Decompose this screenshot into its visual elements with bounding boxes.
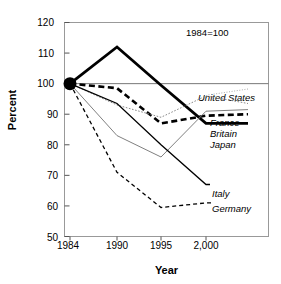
series-line-japan [70,47,248,123]
origin-marker-dot [64,77,77,90]
leader-lines [208,89,248,95]
series-line-britain [70,84,248,124]
chart-container: Percent 50 60 70 80 90 100 110 120 1984 … [0,0,281,284]
plot-frame [65,23,269,237]
chart-plot-svg [0,0,281,284]
leader-united-states [208,89,248,95]
series-line-united-states [70,84,248,118]
series-line-germany [70,84,212,208]
x-tick-marks [70,237,206,241]
series-line-italy [70,84,210,185]
y-tick-marks [65,23,70,237]
series-layer [70,47,248,208]
